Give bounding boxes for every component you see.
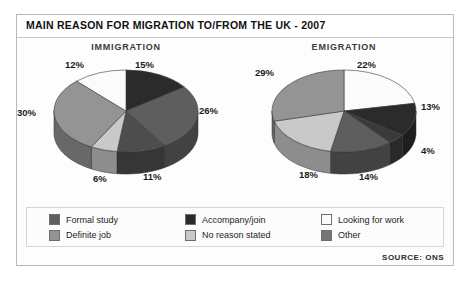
legend-item: Accompany/join: [169, 212, 301, 228]
pie-slice-label: 6%: [93, 173, 107, 184]
legend-label: Definite job: [66, 230, 111, 240]
legend-label: Other: [338, 230, 361, 240]
legend-label: Accompany/join: [202, 215, 266, 225]
title-bar: MAIN REASON FOR MIGRATION TO/FROM THE UK…: [17, 15, 453, 38]
pie-slice-label: 29%: [255, 67, 274, 78]
chart-panel-immigration: IMMIGRATION 15%26%11%6%30%12%: [17, 37, 235, 205]
chart-title-emigration: EMIGRATION: [235, 42, 453, 52]
legend-item: Looking for work: [305, 212, 437, 228]
pie-slice-label: 14%: [359, 171, 378, 182]
pie-svg: [31, 61, 221, 187]
legend-grid: Formal studyAccompany/joinLooking for wo…: [33, 212, 437, 243]
pie-top-faces: [54, 70, 198, 152]
legend-item: Definite job: [33, 228, 165, 244]
source-note: SOURCE: ONS: [382, 253, 444, 262]
legend-item: No reason stated: [169, 228, 301, 244]
pie-chart-immigration: 15%26%11%6%30%12%: [31, 61, 221, 187]
pie-top-faces: [272, 70, 416, 152]
pie-slice-label: 11%: [143, 171, 162, 182]
legend-swatch: [49, 230, 60, 241]
pie-slice-label: 18%: [299, 169, 318, 180]
legend-label: No reason stated: [202, 230, 271, 240]
legend-swatch: [321, 230, 332, 241]
legend-item: Other: [305, 228, 437, 244]
pie-slice-label: 15%: [135, 59, 154, 70]
figure-panel: MAIN REASON FOR MIGRATION TO/FROM THE UK…: [16, 14, 454, 266]
legend-label: Formal study: [66, 215, 118, 225]
chart-title-immigration: IMMIGRATION: [17, 42, 235, 52]
legend-swatch: [49, 214, 60, 225]
page-title: MAIN REASON FOR MIGRATION TO/FROM THE UK…: [26, 19, 326, 31]
pie-slice-label: 26%: [199, 105, 218, 116]
legend-swatch: [185, 230, 196, 241]
legend-swatch: [321, 214, 332, 225]
pie-svg: [249, 61, 439, 187]
legend-item: Formal study: [33, 212, 165, 228]
pie-slice-label: 12%: [65, 59, 84, 70]
legend: Formal studyAccompany/joinLooking for wo…: [26, 207, 444, 247]
legend-label: Looking for work: [338, 215, 404, 225]
pie-slice-label: 13%: [421, 101, 440, 112]
legend-swatch: [185, 214, 196, 225]
pie-slice-label: 30%: [17, 107, 36, 118]
pie-slice-label: 4%: [421, 145, 435, 156]
chart-panel-emigration: EMIGRATION 22%13%4%14%18%29%: [235, 37, 453, 205]
pie-chart-emigration: 22%13%4%14%18%29%: [249, 61, 439, 187]
charts-area: IMMIGRATION 15%26%11%6%30%12% EMIGRATION…: [17, 37, 453, 205]
pie-slice-label: 22%: [357, 59, 376, 70]
